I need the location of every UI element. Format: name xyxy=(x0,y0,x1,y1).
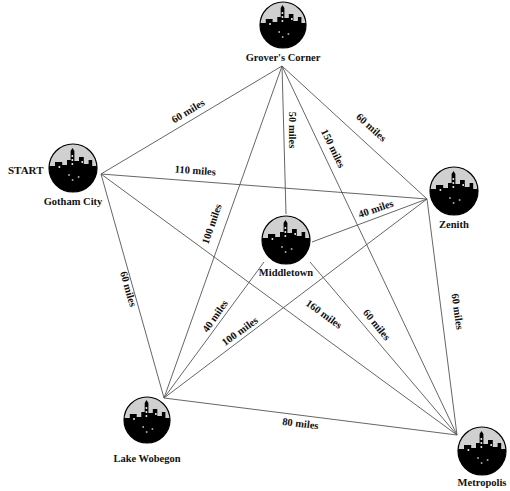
edge-line xyxy=(282,66,286,214)
nodes-layer: Grover's CornerGotham CityZenithMiddleto… xyxy=(44,2,507,488)
edge-distance-label: 50 miles xyxy=(287,112,298,148)
edge-gotham-metropolis: 160 miles xyxy=(101,174,457,435)
edge-distance-label: 110 miles xyxy=(174,164,216,178)
edge-distance-label: 80 miles xyxy=(282,416,320,431)
edge-distance-label: 150 miles xyxy=(319,127,347,169)
edge-lake-metropolis: 80 miles xyxy=(164,398,457,435)
edge-line xyxy=(427,199,457,435)
node-zenith: Zenith xyxy=(430,167,478,230)
edge-line xyxy=(101,174,427,199)
edge-distance-label: 60 miles xyxy=(361,307,392,342)
city-name-label: Metropolis xyxy=(458,477,507,488)
edge-line xyxy=(310,262,457,435)
edge-zenith-middletown: 40 miles xyxy=(312,198,427,242)
edge-distance-label: 60 miles xyxy=(449,293,465,331)
edge-grovers-zenith: 60 miles xyxy=(282,66,427,199)
edge-gotham-grovers: 60 miles xyxy=(101,66,282,174)
route-graph: 60 miles110 miles60 miles160 miles50 mil… xyxy=(0,0,510,491)
city-name-label: Zenith xyxy=(439,219,469,230)
edge-middletown-metropolis: 60 miles xyxy=(310,262,457,435)
edge-grovers-middletown: 50 miles xyxy=(282,66,298,214)
edge-distance-label: 100 miles xyxy=(220,314,260,347)
edge-gotham-lake: 60 miles xyxy=(101,174,164,398)
edge-distance-label: 60 miles xyxy=(118,270,139,308)
edge-distance-label: 160 miles xyxy=(304,297,344,330)
edge-distance-label: 60 miles xyxy=(170,97,207,125)
edge-line xyxy=(282,66,427,199)
node-lake: Lake Wobegon xyxy=(113,397,180,464)
node-middletown: Middletown xyxy=(259,216,313,278)
start-label: START xyxy=(8,164,44,176)
edge-gotham-zenith: 110 miles xyxy=(101,164,427,199)
edge-distance-label: 60 miles xyxy=(354,111,388,144)
edge-line xyxy=(101,66,282,174)
edge-zenith-metropolis: 60 miles xyxy=(427,199,465,435)
city-name-label: Grover's Corner xyxy=(246,52,321,63)
node-gotham: Gotham City xyxy=(44,144,103,207)
edge-distance-label: 40 miles xyxy=(357,198,395,220)
city-name-label: Lake Wobegon xyxy=(113,453,180,464)
edge-line xyxy=(101,174,457,435)
city-name-label: Gotham City xyxy=(44,196,103,207)
node-grovers: Grover's Corner xyxy=(246,2,321,63)
city-name-label: Middletown xyxy=(259,267,313,278)
node-metropolis: Metropolis xyxy=(458,427,507,488)
